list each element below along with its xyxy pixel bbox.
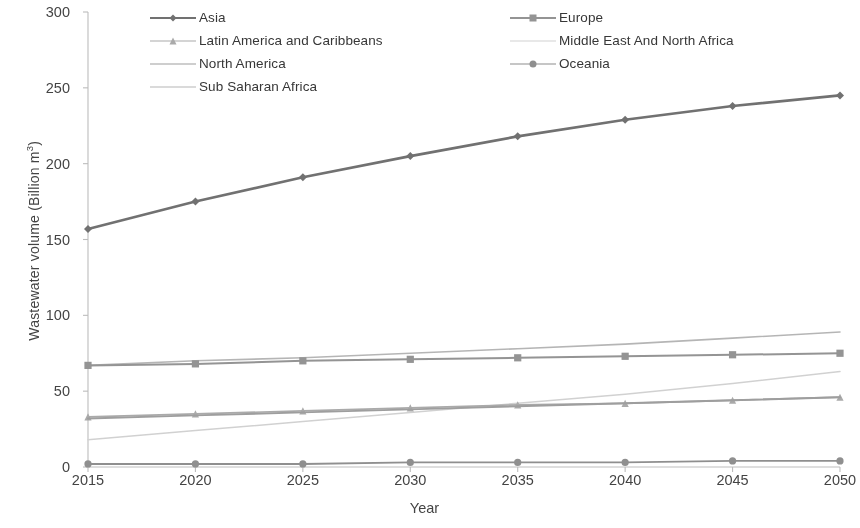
data-point-marker	[836, 91, 844, 99]
x-axis-tick-label: 2025	[268, 472, 338, 488]
data-point-marker	[84, 460, 91, 467]
series-line	[88, 353, 840, 365]
data-point-marker	[621, 116, 629, 124]
data-point-marker	[84, 362, 91, 369]
data-point-marker	[299, 173, 307, 181]
data-point-marker	[836, 457, 843, 464]
series-europe	[84, 350, 843, 369]
data-point-marker	[622, 353, 629, 360]
series-asia	[84, 91, 844, 232]
data-point-marker	[191, 198, 199, 206]
series-line	[88, 461, 840, 464]
data-point-marker	[514, 459, 521, 466]
x-axis-tick-label: 2030	[375, 472, 445, 488]
x-axis-tick-labels: 20152020202520302035204020452050	[0, 472, 849, 502]
data-point-marker	[299, 460, 306, 467]
data-point-marker	[622, 459, 629, 466]
data-point-marker	[514, 132, 522, 140]
data-point-marker	[406, 152, 414, 160]
x-axis-tick-label: 2035	[483, 472, 553, 488]
data-point-marker	[729, 351, 736, 358]
data-point-marker	[729, 102, 737, 110]
series-oceania	[84, 457, 843, 467]
data-point-marker	[192, 360, 199, 367]
data-point-marker	[729, 457, 736, 464]
series-north-america	[88, 397, 840, 418]
data-point-marker	[836, 350, 843, 357]
series-sub-saharan-africa	[88, 332, 840, 365]
data-point-marker	[84, 225, 92, 233]
x-axis-tick-label: 2045	[698, 472, 768, 488]
series-line	[88, 397, 840, 418]
x-axis-tick-label: 2040	[590, 472, 660, 488]
data-point-marker	[299, 357, 306, 364]
data-point-marker	[407, 356, 414, 363]
series-line	[88, 95, 840, 229]
data-point-marker	[192, 460, 199, 467]
data-point-marker	[514, 354, 521, 361]
x-axis-tick-label: 2015	[53, 472, 123, 488]
x-axis-tick-label: 2020	[160, 472, 230, 488]
x-axis-title: Year	[0, 500, 849, 516]
x-axis-tick-label: 2050	[805, 472, 860, 488]
series-line	[88, 332, 840, 365]
data-point-marker	[407, 459, 414, 466]
